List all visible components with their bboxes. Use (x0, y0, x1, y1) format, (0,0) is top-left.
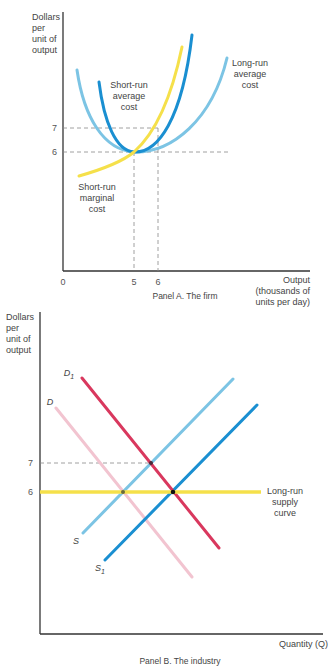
s-label: S (73, 536, 79, 546)
panel-a: Dollars per unit of output 7 6 0 5 6 Sho… (32, 12, 310, 307)
panel-a-ytick-7: 7 (52, 123, 57, 133)
lrac-label-line3: cost (242, 80, 259, 90)
panel-a-ylabel-line2: per (32, 23, 45, 33)
panel-b: Dollars per unit of output 7 6 D1 D S S1… (6, 312, 328, 666)
panel-b-ylabel-line1: Dollars (6, 312, 35, 322)
supply-curve-s (83, 379, 233, 533)
lrs-label-line2: supply (272, 497, 299, 507)
long-run-average-cost-curve (77, 58, 227, 152)
srac-label-line2: average (113, 91, 146, 101)
d-label: D (47, 397, 54, 407)
panel-b-caption: Panel B. The industry (139, 656, 221, 666)
srmc-label-line2: marginal (80, 193, 115, 203)
lrs-label-line1: Long-run (267, 486, 303, 496)
lrac-label-line2: average (234, 69, 267, 79)
panel-b-ylabel-line3: unit of (6, 334, 31, 344)
srmc-label-line3: cost (89, 204, 106, 214)
panel-a-xtick-6: 6 (155, 277, 160, 287)
intersection-d-s (121, 490, 125, 494)
d1-label: D1 (64, 368, 75, 380)
srac-label-line3: cost (121, 102, 138, 112)
panel-a-ylabel-line3: unit of (32, 34, 57, 44)
panel-a-ylabel-line1: Dollars (32, 12, 61, 22)
panel-a-caption: Panel A. The firm (152, 291, 217, 301)
panel-a-ylabel-line4: output (32, 45, 58, 55)
panel-a-origin: 0 (60, 277, 65, 287)
panel-b-ylabel-line2: per (6, 323, 19, 333)
supply-curve-s1 (105, 405, 257, 560)
intersection-d1-s (149, 461, 153, 465)
intersection-d1-s1 (171, 490, 176, 495)
lrs-label-line3: curve (274, 508, 296, 518)
panel-b-ytick-6: 6 (28, 487, 33, 497)
panel-a-xlabel-line3: units per day) (255, 297, 310, 307)
figure: Dollars per unit of output 7 6 0 5 6 Sho… (0, 0, 329, 671)
panel-a-xtick-5: 5 (131, 277, 136, 287)
panel-b-ytick-7: 7 (28, 458, 33, 468)
lrac-label-line1: Long-run (232, 58, 268, 68)
panel-a-xlabel-line2: (thousands of (255, 286, 310, 296)
srac-label-line1: Short-run (110, 80, 148, 90)
panel-b-xlabel: Quantity (Q) (279, 639, 328, 649)
s1-label: S1 (95, 563, 105, 575)
srmc-label-line1: Short-run (78, 182, 116, 192)
panel-a-xlabel-line1: Output (283, 275, 311, 285)
panel-a-ytick-6: 6 (52, 147, 57, 157)
panel-b-ylabel-line4: output (6, 345, 32, 355)
